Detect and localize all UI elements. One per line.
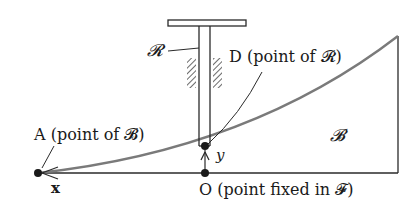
cam-follower-diagram <box>0 0 414 202</box>
rod-label-leader <box>168 48 199 51</box>
point-d-dot <box>201 142 209 150</box>
guide-hatch-left <box>187 58 196 88</box>
y-axis-label: y <box>216 148 224 163</box>
rod-label: 𝓡 <box>147 42 163 59</box>
guide-hatch-right <box>213 58 222 88</box>
point-d-label: D (point of 𝓡) <box>229 49 342 65</box>
point-a-dot <box>34 169 42 177</box>
point-o-dot <box>201 169 209 177</box>
x-axis-label: x <box>51 181 60 196</box>
point-a-label: A (point of 𝓑) <box>34 127 145 143</box>
body-b-label: 𝓑 <box>330 127 345 144</box>
point-a-leader <box>42 146 54 168</box>
point-o-label: O (point fixed in 𝓕) <box>199 182 354 198</box>
